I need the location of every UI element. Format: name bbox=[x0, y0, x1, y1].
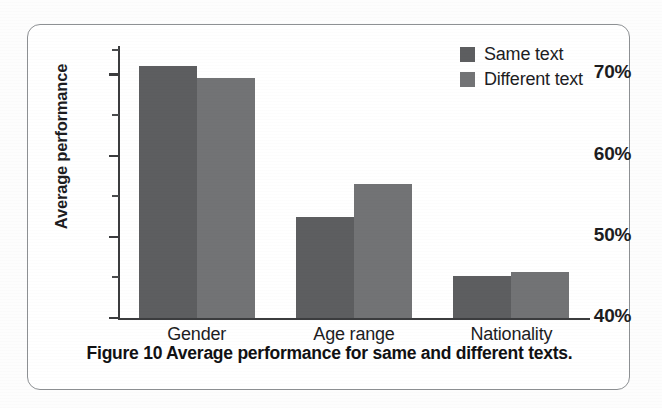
y-axis-tick-major bbox=[109, 73, 118, 75]
bar[interactable] bbox=[511, 272, 569, 318]
bar-chart: 40%50%60%70% Average performance GenderA… bbox=[28, 25, 631, 391]
legend-label: Same text bbox=[484, 44, 563, 65]
figure-page: 40%50%60%70% Average performance GenderA… bbox=[0, 0, 662, 408]
y-axis-tick-major bbox=[109, 317, 118, 319]
x-axis-tick-label: Nationality bbox=[433, 324, 590, 345]
x-axis-line bbox=[118, 318, 590, 320]
bar[interactable] bbox=[453, 276, 511, 318]
legend-swatch-icon bbox=[460, 47, 475, 62]
legend-item[interactable]: Same text bbox=[460, 43, 583, 66]
bar[interactable] bbox=[354, 184, 412, 318]
figure-frame: 40%50%60%70% Average performance GenderA… bbox=[27, 24, 630, 390]
bar-group bbox=[139, 46, 255, 318]
legend-label: Different text bbox=[484, 69, 583, 90]
legend-swatch-icon bbox=[460, 72, 475, 87]
y-axis-tick-major bbox=[109, 155, 118, 157]
bar[interactable] bbox=[139, 66, 197, 318]
y-axis-title: Average performance bbox=[52, 42, 71, 252]
figure-caption: Figure 10 Average performance for same a… bbox=[28, 343, 631, 364]
legend-item[interactable]: Different text bbox=[460, 68, 583, 91]
bar[interactable] bbox=[197, 78, 255, 318]
bar[interactable] bbox=[296, 217, 354, 318]
bar-group bbox=[296, 46, 412, 318]
x-axis-tick-label: Age range bbox=[275, 324, 432, 345]
x-axis-tick-label: Gender bbox=[118, 324, 275, 345]
chart-legend: Same textDifferent text bbox=[460, 43, 583, 93]
y-axis-tick-major bbox=[109, 236, 118, 238]
